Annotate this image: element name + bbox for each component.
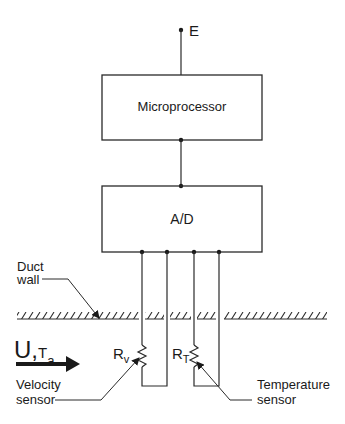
velocity-resistor-subscript: v [124,353,130,365]
bus-connection [179,138,183,188]
temperature-sensor-leader [197,362,252,400]
adc-label: A/D [102,212,262,226]
microprocessor-label: Microprocessor [102,100,262,113]
temperature-resistor-symbol: R [172,345,183,362]
supply-terminal [179,28,183,75]
flow-separator: , [31,336,38,363]
velocity-resistor-symbol: R [113,345,124,362]
flow-temperature-subscript: a [47,353,54,368]
temperature-sensor-label-line2: sensor [257,393,296,406]
duct-wall-label-line2: wall [17,273,39,286]
temperature-resistor-subscript: T [183,353,190,365]
velocity-resistor-label: Rv [113,346,129,365]
flow-temperature-symbol: T [38,344,47,361]
duct-wall [17,312,327,319]
temperature-resistor-label: RT [172,346,190,365]
velocity-sensor-label-line2: sensor [16,393,55,406]
temperature-sensor-label-line1: Temperature [257,378,330,391]
flow-label: U,Ta [14,338,54,366]
velocity-sensor-label-line1: Velocity [16,378,61,391]
flow-velocity-symbol: U [14,336,31,363]
supply-label: E [189,23,199,38]
velocity-resistor-zigzag [138,345,146,367]
temperature-resistor-zigzag [190,345,198,367]
